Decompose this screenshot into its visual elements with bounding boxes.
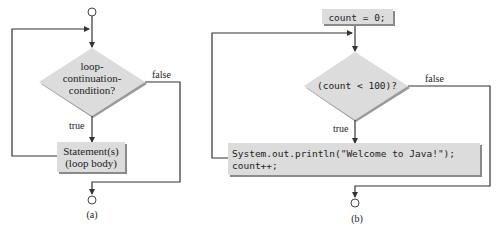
init-statement-b: count = 0; <box>328 12 385 23</box>
condition-line-1-a: loop- <box>80 60 104 72</box>
end-node-a <box>88 196 96 204</box>
flowchart-canvas: loop- continuation- condition? false tru… <box>0 0 498 235</box>
false-label-a: false <box>152 69 171 80</box>
condition-b: (count < 100)? <box>317 80 397 91</box>
body-line-2-b: count++; <box>232 160 278 171</box>
body-line-1-b: System.out.println("Welcome to Java!"); <box>232 148 455 159</box>
caption-b: (b) <box>351 213 363 225</box>
end-node-b <box>351 199 359 207</box>
flowchart-a: loop- continuation- condition? false tru… <box>12 8 180 221</box>
false-label-b: false <box>425 73 444 84</box>
condition-line-3-a: condition? <box>69 84 116 96</box>
true-label-a: true <box>69 120 85 131</box>
condition-line-2-a: continuation- <box>63 72 122 84</box>
body-line-2-a: (loop body) <box>65 157 117 170</box>
flowchart-b: count = 0; (count < 100)? false true Sys… <box>212 9 490 225</box>
true-label-b: true <box>333 123 349 134</box>
start-node-a <box>88 8 96 16</box>
caption-a: (a) <box>86 209 97 221</box>
